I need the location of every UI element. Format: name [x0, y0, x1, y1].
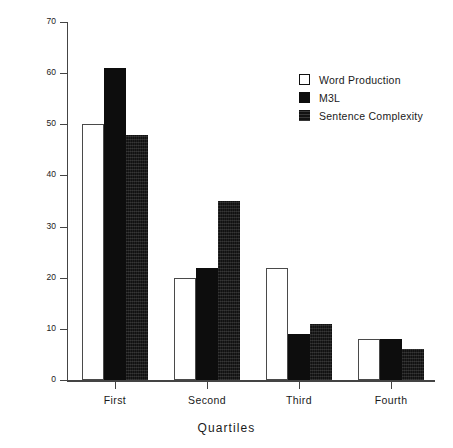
x-axis-tick-label: Fourth: [351, 394, 431, 406]
legend-swatch-icon: [299, 74, 310, 85]
y-axis-tick-label: 40: [47, 169, 56, 179]
x-axis-tick: [391, 382, 392, 389]
x-axis-title: Quartiles: [0, 421, 453, 435]
y-axis-tick: 10: [60, 329, 67, 330]
x-axis-tick: [207, 382, 208, 389]
y-axis-tick: 50: [60, 124, 67, 125]
legend-item: Word Production: [299, 72, 423, 87]
x-axis-tick: [299, 382, 300, 389]
y-axis-tick: 0: [60, 380, 67, 381]
x-axis-tick-label: Second: [167, 394, 247, 406]
legend-label: Word Production: [319, 74, 401, 86]
x-axis-line: [67, 380, 435, 382]
legend-label: M3L: [319, 92, 340, 104]
bar: [358, 339, 380, 380]
y-axis-tick: 40: [60, 175, 67, 176]
y-axis-tick: 70: [60, 22, 67, 23]
y-axis-tick-label: 60: [47, 67, 56, 77]
y-axis-tick-label: 0: [51, 374, 56, 384]
y-axis-tick-label: 50: [47, 118, 56, 128]
bar: [288, 334, 310, 380]
x-axis-tick-label: Third: [259, 394, 339, 406]
x-axis-tick-label: First: [75, 394, 155, 406]
y-axis-tick-label: 20: [47, 272, 56, 282]
legend-item: Sentence Complexity: [299, 108, 423, 123]
legend-label: Sentence Complexity: [319, 110, 423, 122]
bar: [380, 339, 402, 380]
y-axis-tick: 60: [60, 73, 67, 74]
bar: [196, 268, 218, 381]
bar-chart: Percent of Sample 010203040506070 FirstS…: [0, 0, 453, 448]
bar: [126, 135, 148, 380]
legend-swatch-icon: [299, 92, 310, 103]
y-axis-line: [67, 22, 68, 380]
legend: Word ProductionM3LSentence Complexity: [299, 72, 423, 126]
bar: [174, 278, 196, 380]
legend-swatch-icon: [299, 110, 310, 121]
bar: [82, 124, 104, 380]
y-axis-tick-label: 10: [47, 323, 56, 333]
legend-item: M3L: [299, 90, 423, 105]
y-axis-tick-label: 30: [47, 221, 56, 231]
bar: [266, 268, 288, 381]
bar: [310, 324, 332, 380]
bar: [218, 201, 240, 380]
x-axis-tick: [115, 382, 116, 389]
y-axis-tick: 20: [60, 278, 67, 279]
bar: [104, 68, 126, 380]
y-axis-tick: 30: [60, 227, 67, 228]
bar: [402, 349, 424, 380]
y-axis-tick-label: 70: [47, 16, 56, 26]
